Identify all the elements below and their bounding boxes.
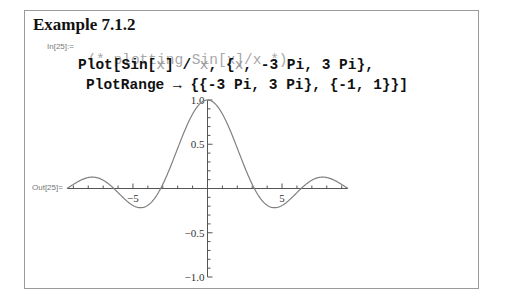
sinc-plot: −551.00.5−0.5−1.0 bbox=[0, 0, 506, 305]
y-tick-label: 1.0 bbox=[191, 94, 205, 106]
y-tick-label: −1.0 bbox=[185, 271, 205, 283]
y-tick-label: 0.5 bbox=[191, 138, 205, 150]
x-tick-label: 5 bbox=[279, 192, 285, 204]
x-tick-label: −5 bbox=[127, 192, 139, 204]
y-tick-label: −0.5 bbox=[185, 227, 205, 239]
